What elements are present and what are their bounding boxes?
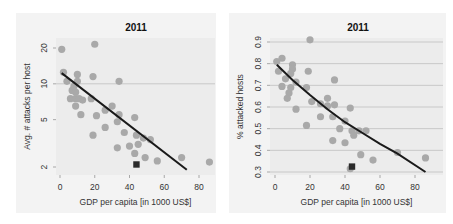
chart-title: 2011 xyxy=(347,22,369,33)
data-point xyxy=(357,151,364,158)
data-point xyxy=(305,68,312,75)
data-point xyxy=(284,95,291,102)
data-point xyxy=(306,36,313,43)
data-point xyxy=(347,104,354,111)
x-tick-label: 0 xyxy=(273,182,278,192)
y-tick-label: 0.8 xyxy=(253,57,263,69)
x-tick-label: 60 xyxy=(375,182,385,192)
y-tick-label: 0.5 xyxy=(253,122,263,134)
data-point xyxy=(350,132,357,139)
scatter-chart-percent-attacked: 20110.30.40.50.60.70.80.9020406080GDP pe… xyxy=(0,0,453,224)
data-point xyxy=(292,106,299,113)
data-point xyxy=(324,95,331,102)
x-tick-label: 40 xyxy=(340,182,350,192)
data-point xyxy=(331,101,338,108)
x-tick-label: 20 xyxy=(305,182,315,192)
y-tick-label: 0.6 xyxy=(253,101,263,113)
data-point xyxy=(278,83,285,90)
x-axis-label: GDP per capita [in 1000 US$] xyxy=(301,197,413,207)
data-point xyxy=(422,154,429,161)
data-point xyxy=(331,76,338,83)
y-tick-label: 0.4 xyxy=(253,144,263,156)
data-point xyxy=(329,137,336,144)
data-point xyxy=(336,125,343,132)
x-tick-label: 80 xyxy=(410,182,420,192)
data-point xyxy=(369,156,376,163)
highlight-marker xyxy=(349,163,355,169)
y-tick-label: 0.9 xyxy=(253,36,263,48)
data-point xyxy=(341,139,348,146)
data-point xyxy=(303,122,310,129)
data-point xyxy=(317,113,324,120)
y-axis-label: % attacked hosts xyxy=(235,74,245,139)
y-tick-label: 0.7 xyxy=(253,79,263,91)
data-point xyxy=(273,58,280,65)
y-tick-label: 0.3 xyxy=(253,166,263,178)
